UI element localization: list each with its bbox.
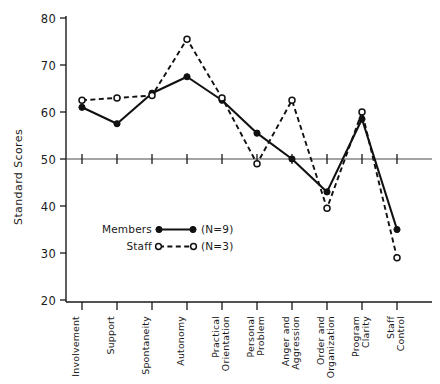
x-tick-label: Problem	[255, 316, 266, 356]
data-point-staff	[149, 93, 155, 99]
data-point-staff	[219, 95, 225, 101]
y-tick-label: 20	[41, 294, 56, 308]
line-chart: 20304050607080 Standard Scores Involveme…	[0, 0, 440, 384]
chart-page: 20304050607080 Standard Scores Involveme…	[0, 0, 440, 384]
x-tick-label: Anger and	[280, 316, 291, 366]
x-tick-label: Practical	[210, 316, 221, 358]
y-tick-labels: 20304050607080	[41, 12, 56, 308]
x-tick-labels: InvolvementSupportSpontaneityAutonomyPra…	[70, 316, 407, 379]
x-tick-label: Spontaneity	[140, 316, 151, 375]
x-tick-label: Organization	[325, 316, 336, 378]
x-tick-label: Program	[350, 316, 361, 357]
data-point-members	[324, 189, 330, 195]
data-point-members	[184, 74, 190, 80]
y-tick-label: 50	[41, 153, 56, 167]
legend-label-staff: Staff	[126, 240, 152, 252]
x-tick-label: Order and	[315, 316, 326, 365]
y-tick-label: 70	[41, 59, 56, 73]
legend: Members (N=9) Staff (N=3)	[102, 223, 234, 252]
y-axis-title: Standard Scores	[12, 129, 25, 225]
x-tick-label: Involvement	[70, 316, 81, 377]
x-tick-label: Autonomy	[175, 316, 186, 366]
legend-marker-staff-end	[191, 244, 197, 250]
data-point-members	[79, 104, 85, 110]
legend-marker-members-start	[156, 226, 162, 232]
x-tick-label: Support	[105, 316, 116, 355]
data-point-staff	[254, 161, 260, 167]
data-point-staff	[394, 255, 400, 261]
x-axis-group: InvolvementSupportSpontaneityAutonomyPra…	[66, 302, 432, 378]
data-point-members	[394, 226, 400, 232]
y-tick-label: 30	[41, 247, 56, 261]
x-tick-label: Control	[395, 316, 406, 351]
y-tick-label: 60	[41, 106, 56, 120]
x-tick-label: Staff	[385, 316, 396, 339]
legend-label-members: Members	[102, 223, 152, 235]
data-point-staff	[184, 36, 190, 42]
y-axis-group: 20304050607080 Standard Scores	[12, 12, 66, 308]
legend-marker-staff-start	[156, 244, 162, 250]
y-tick-marks	[60, 18, 66, 300]
data-point-members	[254, 130, 260, 136]
data-point-members	[114, 121, 120, 127]
x-tick-label: Personal	[245, 316, 256, 357]
data-point-members	[289, 156, 295, 162]
x-tick-label: Clarity	[360, 316, 371, 348]
x-tick-label: Orientation	[220, 316, 231, 371]
legend-count-members: (N=9)	[201, 223, 234, 235]
y-tick-label: 40	[41, 200, 56, 214]
legend-count-staff: (N=3)	[201, 240, 234, 252]
y-tick-label: 80	[41, 12, 56, 26]
data-point-staff	[289, 97, 295, 103]
data-point-staff	[79, 97, 85, 103]
legend-marker-members-end	[190, 226, 196, 232]
series-line-members	[82, 77, 397, 230]
x-tick-marks	[82, 302, 397, 310]
data-point-staff	[324, 205, 330, 211]
reference-line-group	[66, 154, 432, 164]
x-tick-label: Aggression	[290, 316, 301, 370]
data-point-members	[359, 116, 365, 122]
data-point-staff	[114, 95, 120, 101]
data-point-staff	[359, 109, 365, 115]
